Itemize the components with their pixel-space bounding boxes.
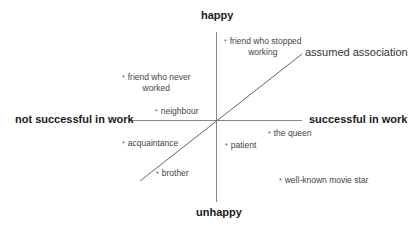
point-the-queen: *the queen	[268, 128, 312, 139]
point-label: brother	[162, 168, 189, 178]
point-label: well-known movie star	[285, 175, 369, 185]
point-well-known-movie-star: *well-known movie star	[279, 175, 368, 186]
point-label: friend who stopped	[230, 36, 302, 46]
asterisk-marker-icon: *	[225, 142, 228, 149]
point-label: acquaintance	[128, 138, 179, 148]
point-friend-who-never-worked: *friend who never worked	[122, 72, 191, 93]
asterisk-marker-icon: *	[224, 38, 227, 45]
point-label-cont: working	[224, 47, 302, 57]
point-neighbour: *neighbour	[155, 106, 199, 117]
asterisk-marker-icon: *	[122, 140, 125, 147]
asterisk-marker-icon: *	[156, 170, 159, 177]
point-friend-who-stopped-working: *friend who stopped working	[224, 36, 302, 57]
asterisk-marker-icon: *	[268, 130, 271, 137]
assumed-association-label: assumed association	[305, 46, 408, 58]
point-label: neighbour	[161, 106, 199, 116]
asterisk-marker-icon: *	[279, 177, 282, 184]
point-label: patient	[231, 140, 257, 150]
axis-label-successful: successful in work	[309, 113, 407, 125]
point-brother: *brother	[156, 168, 189, 179]
asterisk-marker-icon: *	[155, 108, 158, 115]
point-label: the queen	[274, 128, 312, 138]
axis-label-happy: happy	[201, 9, 233, 21]
point-label-cont: worked	[122, 83, 191, 93]
point-patient: *patient	[225, 140, 256, 151]
point-acquaintance: *acquaintance	[122, 138, 178, 149]
point-label: friend who never	[128, 72, 191, 82]
asterisk-marker-icon: *	[122, 74, 125, 81]
axis-label-unhappy: unhappy	[196, 206, 242, 218]
axis-label-not-successful: not successful in work	[15, 113, 134, 125]
